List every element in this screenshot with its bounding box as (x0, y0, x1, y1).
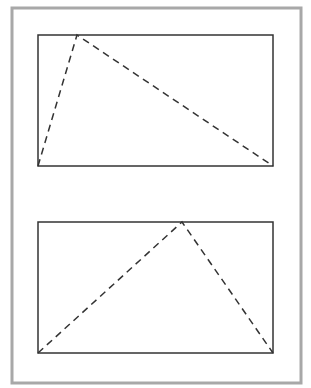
dashed-triangle-bottom (38, 222, 273, 353)
rectangle-top (38, 35, 273, 166)
figure-bottom (38, 222, 273, 353)
outer-frame (12, 8, 301, 383)
figure-top (38, 35, 273, 166)
rectangle-bottom (38, 222, 273, 353)
diagram-canvas (0, 0, 311, 388)
dashed-triangle-top (38, 35, 273, 166)
